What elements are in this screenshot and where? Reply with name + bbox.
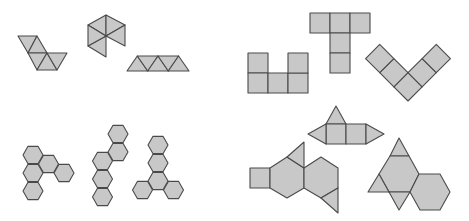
triangle-face [390,138,409,156]
square-hexagon-triangle-net [250,142,338,213]
u-shaped-square-net [248,53,308,93]
square-face [268,73,288,93]
square-face [250,168,270,188]
triangle-face [366,124,384,144]
square-face [330,53,350,73]
hexagon-face [133,181,153,198]
hexagon-cluster-net-a [23,146,74,199]
square-face [350,13,370,33]
triangle-face [308,124,326,144]
hexagon-face [108,125,128,142]
hexagon-face [148,154,168,171]
hexagon-face [148,136,168,153]
hexagon-fan-triangles-net [88,15,125,57]
triangular-prism-net [308,106,384,144]
t-shaped-square-net [310,13,370,73]
triangle-face [326,106,346,124]
hexagon-face [164,181,184,198]
square-face [288,73,308,93]
square-face [330,13,350,33]
nets-diagram [0,0,469,221]
triangle-strip-zigzag-net [18,36,67,70]
hexagon-face [93,170,113,187]
square-face [326,124,346,144]
triangle-row-net [127,56,189,71]
hexagon-face [93,188,113,205]
square-face [310,13,330,33]
hexagon-chain-net-b [93,125,129,205]
hexagon-tripod-net-c [133,136,184,198]
hexagon-face [23,182,43,199]
square-face [346,124,366,144]
v-shaped-square-net [366,44,451,101]
square-face [248,73,268,93]
hexagon-face [54,164,74,181]
hexagon-face [410,174,450,210]
hexagon-face [93,152,113,169]
square-face [330,33,350,53]
triangle-face [389,192,410,210]
truncated-tetrahedron-net [368,138,450,210]
square-face [288,53,308,73]
square-face [248,53,268,73]
